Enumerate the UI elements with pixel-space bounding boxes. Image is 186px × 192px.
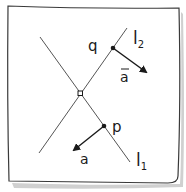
intersection-point xyxy=(78,91,83,96)
label-p: p xyxy=(112,118,122,136)
label-a: a xyxy=(80,151,89,167)
label-a-bar: a xyxy=(120,69,129,85)
diagram-canvas: q l2 a p a l1 xyxy=(0,0,186,192)
paper-frame xyxy=(8,6,180,183)
label-q: q xyxy=(88,37,98,55)
